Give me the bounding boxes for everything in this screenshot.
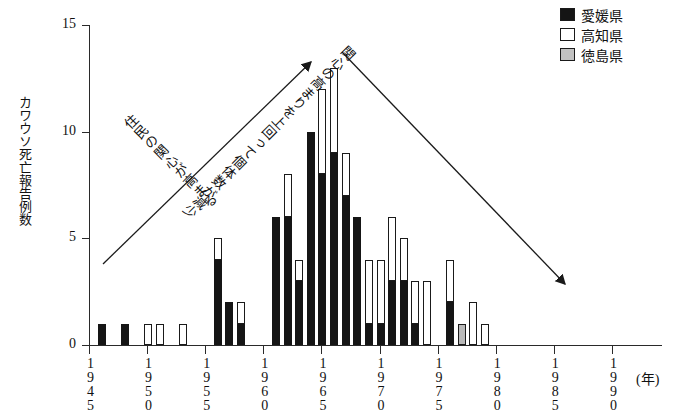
bar-segment-ehime [295, 281, 303, 345]
bar-1961 [272, 217, 280, 345]
legend-label-ehime: 愛媛県 [581, 5, 623, 25]
bar-1977 [458, 324, 466, 345]
bar-1948 [121, 324, 129, 345]
bar-segment-ehime [342, 196, 350, 345]
bar-segment-ehime [307, 132, 315, 345]
bar-1963 [295, 260, 303, 345]
bar-segment-kochi [237, 302, 245, 323]
bar-segment-kochi [365, 260, 373, 324]
bar-1968 [353, 217, 361, 345]
bar-1956 [214, 238, 222, 345]
bar-segment-ehime [98, 324, 106, 345]
bar-1970 [377, 260, 385, 345]
bar-1979 [481, 324, 489, 345]
bar-1953 [179, 324, 187, 345]
bar-segment-kochi [400, 238, 408, 281]
bar-segment-ehime [225, 302, 233, 345]
bar-1971 [388, 217, 396, 345]
black-square-icon [560, 8, 575, 21]
bar-1962 [284, 174, 292, 345]
bar-segment-tokushima [458, 324, 466, 345]
bar-1973 [411, 281, 419, 345]
bar-segment-ehime [330, 153, 338, 345]
bar-segment-kochi [295, 260, 303, 281]
bar-1976 [446, 260, 454, 345]
bar-segment-ehime [377, 324, 385, 345]
bar-segment-ehime [284, 217, 292, 345]
legend-label-tokushima: 徳島県 [581, 45, 623, 65]
bar-1946 [98, 324, 106, 345]
bar-segment-kochi [342, 153, 350, 196]
bar-segment-ehime [400, 281, 408, 345]
bar-segment-kochi [179, 324, 187, 345]
bar-segment-ehime [388, 281, 396, 345]
bar-segment-ehime [214, 260, 222, 345]
bar-1965 [318, 89, 326, 345]
bar-segment-ehime [237, 324, 245, 345]
bar-segment-kochi [284, 174, 292, 217]
bar-1951 [156, 324, 164, 345]
legend-item-ehime: 愛媛県 [560, 6, 680, 23]
legend-item-kochi: 高知県 [560, 26, 680, 43]
bar-segment-kochi [318, 89, 326, 174]
bar-segment-kochi [156, 324, 164, 345]
bar-1966 [330, 68, 338, 345]
bar-1974 [423, 281, 431, 345]
bar-segment-ehime [272, 217, 280, 345]
bar-1969 [365, 260, 373, 345]
bar-segment-ehime [353, 217, 361, 345]
bar-1958 [237, 302, 245, 345]
bar-segment-kochi [377, 260, 385, 324]
bar-segment-kochi [411, 281, 419, 324]
chart-canvas: カワウソ死亡報告例数 051015 1945195019551960196519… [0, 0, 686, 414]
legend-item-tokushima: 徳島県 [560, 46, 680, 63]
bar-segment-kochi [214, 238, 222, 259]
bar-segment-kochi [144, 324, 152, 345]
legend: 愛媛県 高知県 徳島県 [560, 6, 680, 66]
bar-segment-kochi [469, 302, 477, 345]
bar-segment-ehime [446, 302, 454, 345]
bar-segment-ehime [318, 174, 326, 345]
bar-segment-ehime [411, 324, 419, 345]
bar-1967 [342, 153, 350, 345]
bar-1978 [469, 302, 477, 345]
white-square-icon [560, 28, 575, 41]
bar-1964 [307, 132, 315, 345]
bar-segment-kochi [423, 281, 431, 345]
bar-segment-kochi [481, 324, 489, 345]
bar-segment-ehime [365, 324, 373, 345]
bar-segment-ehime [121, 324, 129, 345]
bar-segment-kochi [446, 260, 454, 303]
bar-1957 [225, 302, 233, 345]
bar-1972 [400, 238, 408, 345]
gray-square-icon [560, 48, 575, 61]
bar-segment-kochi [388, 217, 396, 281]
bar-1950 [144, 324, 152, 345]
legend-label-kochi: 高知県 [581, 25, 623, 45]
